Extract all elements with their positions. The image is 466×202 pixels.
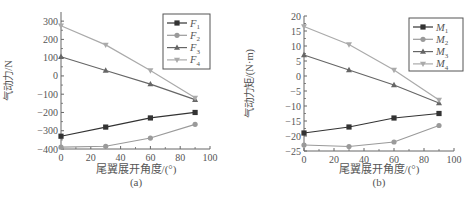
data-point — [148, 135, 153, 140]
y-tick-label: 200 — [43, 34, 58, 45]
series-line — [304, 126, 439, 147]
data-point — [103, 43, 109, 48]
legend-marker — [174, 33, 179, 38]
series-F1 — [58, 110, 197, 139]
data-point — [436, 123, 441, 128]
y-tick-label: 15 — [291, 26, 301, 37]
data-point — [391, 115, 396, 120]
y-tick-label: −400 — [37, 144, 58, 155]
legend-box — [163, 14, 210, 69]
y-tick-label: 300 — [43, 16, 58, 27]
data-point — [147, 68, 153, 73]
series-M2 — [301, 123, 441, 149]
y-tick-label: −15 — [285, 116, 301, 127]
y-tick-label: 0 — [53, 70, 58, 81]
data-point — [346, 144, 351, 149]
data-point — [346, 124, 351, 129]
chart-b-xlabel: 尾翼展开角度/(°) — [304, 160, 454, 176]
data-point — [103, 124, 108, 129]
chart-a: 3002001000−100−200−300−400020406080100气动… — [0, 0, 233, 202]
data-point — [391, 68, 397, 73]
y-tick-label: −300 — [37, 125, 58, 136]
legend-marker — [420, 37, 425, 42]
legend: F1F2F3F4 — [163, 14, 210, 69]
data-point — [148, 115, 153, 120]
y-tick-label: 10 — [291, 41, 301, 52]
data-point — [58, 145, 63, 150]
data-point — [346, 42, 352, 47]
series-line — [304, 114, 439, 134]
y-tick-label: −10 — [285, 101, 301, 112]
y-axis-label: 气动力/N — [2, 60, 14, 101]
series-line — [61, 112, 195, 136]
data-point — [301, 142, 306, 147]
data-point — [436, 111, 441, 116]
series-F2 — [58, 122, 197, 150]
y-tick-label: −25 — [285, 146, 301, 157]
data-point — [301, 130, 306, 135]
y-tick-label: 100 — [43, 52, 58, 63]
y-tick-label: −100 — [37, 89, 58, 100]
y-tick-label: 20 — [291, 11, 301, 22]
chart-a-panel-label: (a) — [61, 176, 211, 188]
data-point — [103, 144, 108, 149]
y-tick-label: 0 — [296, 71, 301, 82]
series-line — [61, 124, 195, 147]
y-tick-label: 5 — [296, 56, 301, 67]
y-tick-label: −20 — [285, 131, 301, 142]
data-point — [193, 122, 198, 127]
legend: M1M2M3M4 — [409, 18, 463, 72]
y-tick-label: −5 — [290, 86, 301, 97]
chart-b-panel-label: (b) — [304, 176, 454, 188]
legend-marker — [174, 20, 179, 25]
chart-b: 20151050−5−10−15−20−25020406080100气动力矩/(… — [233, 0, 466, 202]
y-axis-label: 气动力矩/(N·m) — [243, 48, 256, 118]
data-point — [58, 54, 64, 59]
legend-marker — [420, 24, 425, 29]
chart-a-xlabel: 尾翼展开角度/(°) — [61, 160, 211, 176]
y-tick-label: −200 — [37, 107, 58, 118]
data-point — [58, 134, 63, 139]
data-point — [301, 52, 307, 57]
data-point — [193, 110, 198, 115]
data-point — [391, 139, 396, 144]
